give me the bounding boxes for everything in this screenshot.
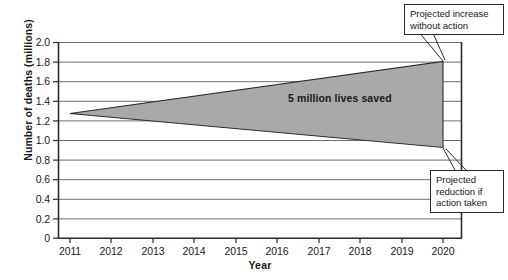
callout-projected-increase: Projected increase without action bbox=[404, 4, 504, 35]
y-axis-title: Number of deaths (millions) bbox=[22, 0, 34, 180]
y-tick-label-0-8: 0.8 bbox=[16, 155, 50, 165]
y-tick-label-1-4: 1.4 bbox=[16, 96, 50, 106]
x-tick-label-2017: 2017 bbox=[296, 245, 342, 257]
callout-projected-reduction: Projected reduction if action taken bbox=[430, 170, 504, 213]
x-tick-label-2011: 2011 bbox=[47, 245, 93, 257]
x-tick-label-2015: 2015 bbox=[213, 245, 259, 257]
x-tick-label-2019: 2019 bbox=[379, 245, 425, 257]
y-tick-label-0-2: 0.2 bbox=[16, 214, 50, 224]
x-tick-label-2014: 2014 bbox=[171, 245, 217, 257]
callout-bottom-line2: reduction if bbox=[436, 186, 499, 198]
y-tick-label-1-6: 1.6 bbox=[16, 76, 50, 86]
x-tick-label-2020: 2020 bbox=[420, 245, 466, 257]
x-tick-label-2013: 2013 bbox=[130, 245, 176, 257]
y-tick-label-1-2: 1.2 bbox=[16, 116, 50, 126]
callout-top-line1: Projected increase bbox=[410, 8, 499, 20]
callout-bottom-line3: action taken bbox=[436, 197, 499, 209]
chart-svg bbox=[0, 0, 508, 280]
y-tick-label-0: 0 bbox=[16, 233, 50, 243]
y-tick-label-0-6: 0.6 bbox=[16, 174, 50, 184]
lives-saved-label: 5 million lives saved bbox=[288, 92, 392, 104]
x-tick-label-2016: 2016 bbox=[254, 245, 300, 257]
y-tick-label-1-8: 1.8 bbox=[16, 57, 50, 67]
callout-top-line2: without action bbox=[410, 20, 499, 32]
y-tick-label-1-0: 1.0 bbox=[16, 135, 50, 145]
y-tick-label-0-4: 0.4 bbox=[16, 194, 50, 204]
chart-figure: Number of deaths (millions) 2.0 1.8 1.6 … bbox=[0, 0, 508, 280]
y-tick-marks bbox=[53, 43, 58, 239]
callout-bottom-line1: Projected bbox=[436, 174, 499, 186]
x-tick-label-2018: 2018 bbox=[337, 245, 383, 257]
x-axis-title: Year bbox=[58, 259, 462, 271]
x-tick-label-2012: 2012 bbox=[88, 245, 134, 257]
y-tick-label-2-0: 2.0 bbox=[16, 37, 50, 47]
